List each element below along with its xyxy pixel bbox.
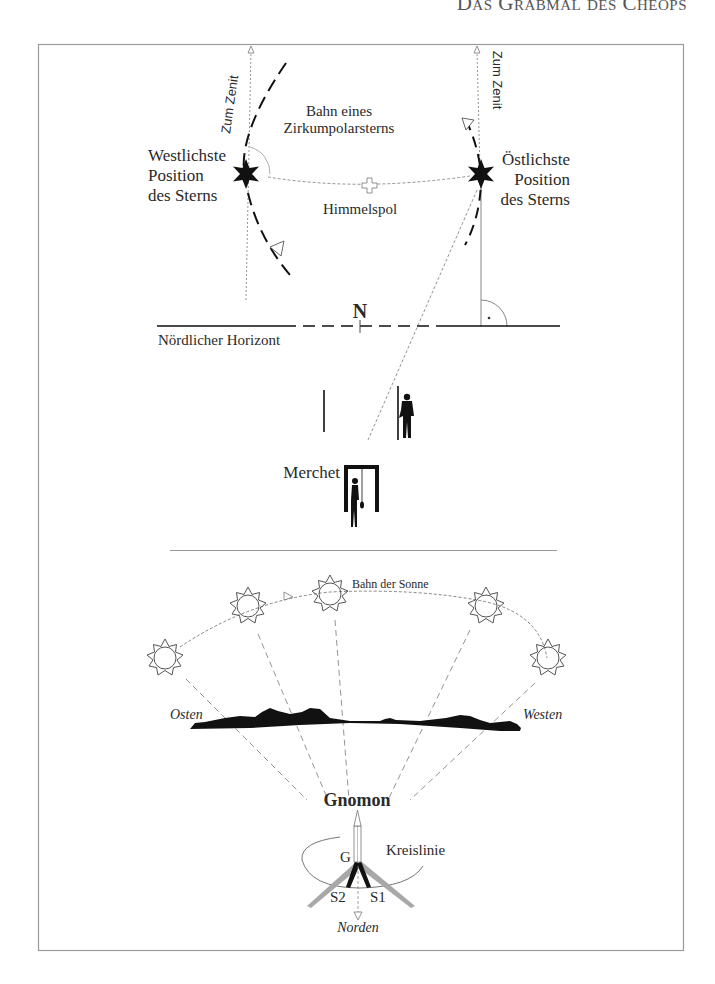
zenith-label-left: Zum Zenit [218,74,241,134]
shadow-2-label: S2 [330,889,346,905]
circumpolar-figure: Zum Zenit Zum Zenit Bahn eines Zirkumpol… [148,46,570,527]
north-marker: N [353,300,368,322]
horizon-label: Nördlicher Horizont [158,332,281,348]
circle-line-label: Kreislinie [386,842,445,858]
east-star-label-3: des Sterns [501,190,570,209]
west-star-label-2: Position [148,166,204,185]
orbit-arrow-left-icon [270,241,284,256]
diagram-canvas: Zum Zenit Zum Zenit Bahn eines Zirkumpol… [0,0,715,984]
zenith-arrow-right-icon [474,46,480,53]
east-star-label-2: Position [514,170,570,189]
orbit-label-1: Bahn eines [306,103,372,119]
east-label: Osten [170,707,203,722]
west-star-icon [233,159,259,189]
orbit-arrow-right-icon [462,118,474,130]
observer-figure-icon [399,394,414,438]
celestial-pole-label: Himmelspol [323,201,397,217]
gnomon-rod-icon [354,810,361,862]
sun-icon-5 [530,639,566,675]
west-star-label-3: des Sterns [148,186,217,205]
merchet-label: Merchet [283,463,340,482]
north-arrow-icon [354,912,362,920]
gnomon-label: Gnomon [323,790,390,810]
sun-icon-3 [312,575,348,611]
merchet-instrument-icon [344,465,379,527]
sun-icon-2 [230,587,266,623]
west-star-label-1: Westlichste [148,146,226,165]
north-label: Norden [336,920,378,935]
sun-icon-1 [147,639,183,675]
sundial-figure: Bahn der Sonne Osten Westen Gnomon G Kre… [147,575,566,935]
zenith-label-right: Zum Zenit [490,51,505,110]
sun-path-label: Bahn der Sonne [352,577,429,591]
gnomon-point-label: G [340,849,351,865]
sun-path-arrow-icon [284,592,293,600]
celestial-pole-icon [362,178,377,193]
orbit-label-2: Zirkumpolarsterns [284,120,395,136]
east-star-icon [468,159,494,189]
svg-text:Zum Zenit: Zum Zenit [490,51,505,110]
east-star-label-1: Östlichste [502,150,570,169]
figure-frame [39,45,684,951]
west-label: Westen [523,707,562,722]
shadow-1-label: S1 [370,889,386,905]
zenith-arrow-left-icon [248,46,254,53]
horizon-silhouette [190,708,521,731]
svg-text:Zum Zenit: Zum Zenit [218,74,241,134]
